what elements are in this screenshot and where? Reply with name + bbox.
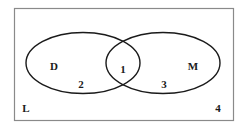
intersection-region-label: 1: [120, 63, 126, 75]
region-d-only-label: 2: [78, 78, 84, 90]
set-m-label: M: [188, 60, 199, 72]
region-m-only-label: 3: [161, 78, 167, 90]
set-d-label: D: [50, 60, 58, 72]
outside-region-label: 4: [215, 102, 221, 114]
universe-label: L: [22, 102, 29, 114]
venn-diagram: D 2 1 M 3 L 4: [0, 0, 240, 129]
